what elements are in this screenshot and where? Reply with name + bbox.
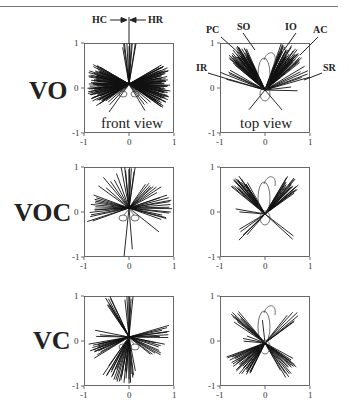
x-tick-left: -1 xyxy=(80,262,88,271)
y-tick-mid: 0 xyxy=(74,208,79,217)
ray-lines xyxy=(87,159,172,256)
x-tick-right: 1 xyxy=(308,391,313,400)
annotation-hc: HC xyxy=(92,15,107,25)
x-tick-right: 1 xyxy=(308,138,313,147)
ray-lines xyxy=(227,311,299,377)
plot-area xyxy=(220,167,310,257)
annotation-sr: SR xyxy=(323,63,336,73)
panel-voc-front: 10-1-101 xyxy=(84,167,174,257)
x-tick-right: 1 xyxy=(172,138,177,147)
x-tick-mid: 0 xyxy=(263,262,268,271)
annotation-pc: PC xyxy=(206,25,219,35)
y-tick-mid: 0 xyxy=(210,337,215,346)
x-tick-left: -1 xyxy=(80,138,88,147)
row-label-voc: VOC xyxy=(14,198,71,228)
front-view-label: front view xyxy=(101,116,163,131)
y-tick-bottom: -1 xyxy=(208,253,216,262)
row-label-vo: VO xyxy=(29,76,67,106)
hc-arrowhead-icon xyxy=(121,18,127,23)
y-tick-mid: 0 xyxy=(210,84,215,93)
ray-lines xyxy=(231,176,298,240)
y-tick-top: 1 xyxy=(74,292,79,301)
annotation-ac: AC xyxy=(313,25,327,35)
y-tick-top: 1 xyxy=(210,163,215,172)
ray-lines xyxy=(88,36,171,112)
top-view-label: top view xyxy=(240,116,292,131)
x-tick-right: 1 xyxy=(172,391,177,400)
y-tick-bottom: -1 xyxy=(72,253,80,262)
x-tick-left: -1 xyxy=(216,391,224,400)
x-tick-right: 1 xyxy=(172,262,177,271)
y-tick-top: 1 xyxy=(210,39,215,48)
y-tick-bottom: -1 xyxy=(72,382,80,391)
annotation-io: IO xyxy=(285,22,297,32)
y-tick-bottom: -1 xyxy=(208,129,216,138)
x-tick-mid: 0 xyxy=(263,138,268,147)
y-tick-top: 1 xyxy=(210,292,215,301)
x-tick-left: -1 xyxy=(80,391,88,400)
ray-lines xyxy=(220,42,312,110)
annotation-hr: HR xyxy=(148,15,163,25)
plot-area xyxy=(220,296,310,386)
x-tick-right: 1 xyxy=(308,262,313,271)
row-label-vc: VC xyxy=(33,326,71,356)
y-tick-bottom: -1 xyxy=(72,129,80,138)
y-tick-top: 1 xyxy=(74,163,79,172)
x-tick-mid: 0 xyxy=(263,391,268,400)
x-tick-mid: 0 xyxy=(127,262,132,271)
annotation-ir: IR xyxy=(196,63,207,73)
plot-area xyxy=(84,167,174,257)
y-tick-mid: 0 xyxy=(210,208,215,217)
top-rule xyxy=(0,6,338,7)
panel-vc-top: 10-1-101 xyxy=(220,296,310,386)
panel-voc-top: 10-1-101 xyxy=(220,167,310,257)
y-tick-top: 1 xyxy=(74,39,79,48)
plot-area xyxy=(84,296,174,386)
panel-vc-front: 10-1-101 xyxy=(84,296,174,386)
y-tick-mid: 0 xyxy=(74,337,79,346)
ray-lines xyxy=(89,288,170,384)
hr-arrowhead-icon xyxy=(130,18,136,23)
y-tick-mid: 0 xyxy=(74,84,79,93)
annotation-so: SO xyxy=(237,22,250,32)
x-tick-mid: 0 xyxy=(127,391,132,400)
x-tick-left: -1 xyxy=(216,262,224,271)
x-tick-mid: 0 xyxy=(127,138,132,147)
x-tick-left: -1 xyxy=(216,138,224,147)
y-tick-bottom: -1 xyxy=(208,382,216,391)
